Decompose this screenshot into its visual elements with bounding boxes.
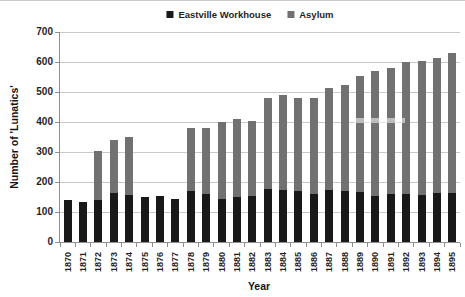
bar-1870-eastville-workhouse (64, 200, 72, 242)
bar-1887-asylum (325, 88, 333, 190)
y-tick-500 (55, 92, 59, 93)
x-tick-label-1871: 1871 (78, 252, 88, 278)
bar-1893-asylum (418, 61, 426, 195)
bar-1892-eastville-workhouse (402, 194, 410, 242)
bar-1892-asylum (402, 62, 410, 194)
x-tick-13 (260, 243, 261, 247)
bar-1872-eastville-workhouse (94, 200, 102, 242)
x-tick-26 (460, 243, 461, 247)
bar-1881-eastville-workhouse (233, 197, 241, 242)
x-tick-7 (167, 243, 168, 247)
x-tick-12 (244, 243, 245, 247)
bar-1874-eastville-workhouse (125, 195, 133, 242)
bar-1885-eastville-workhouse (294, 191, 302, 242)
bar-1873-eastville-workhouse (110, 193, 118, 242)
x-tick-label-1895: 1895 (447, 252, 457, 278)
x-tick-label-1886: 1886 (309, 252, 319, 278)
scan-artifact-band (354, 118, 405, 123)
x-tick-5 (136, 243, 137, 247)
x-tick-label-1872: 1872 (93, 252, 103, 278)
x-tick-10 (213, 243, 214, 247)
x-tick-label-1893: 1893 (417, 252, 427, 278)
bar-1875-eastville-workhouse (141, 197, 149, 242)
bar-1871-eastville-workhouse (79, 202, 87, 242)
x-tick-9 (198, 243, 199, 247)
bar-1886-eastville-workhouse (310, 194, 318, 242)
y-tick-0 (55, 242, 59, 243)
bar-1883-asylum (264, 98, 272, 189)
x-tick-label-1888: 1888 (340, 252, 350, 278)
y-tick-300 (55, 152, 59, 153)
bar-1884-eastville-workhouse (279, 190, 287, 243)
y-tick-label-400: 400 (36, 117, 53, 127)
legend-label-eastville-workhouse: Eastville Workhouse (178, 9, 271, 20)
bar-1878-eastville-workhouse (187, 191, 195, 242)
bar-1895-asylum (448, 53, 456, 193)
bar-1888-asylum (341, 85, 349, 192)
bar-1874-asylum (125, 137, 133, 195)
bar-1889-eastville-workhouse (356, 192, 364, 242)
y-tick-label-200: 200 (36, 177, 53, 187)
x-tick-6 (152, 243, 153, 247)
x-tick-label-1877: 1877 (170, 252, 180, 278)
bar-1894-asylum (433, 58, 441, 193)
bar-1884-asylum (279, 95, 287, 190)
x-tick-25 (444, 243, 445, 247)
x-tick-24 (429, 243, 430, 247)
bar-1895-eastville-workhouse (448, 193, 456, 243)
x-tick-label-1892: 1892 (401, 252, 411, 278)
x-tick-label-1875: 1875 (140, 252, 150, 278)
x-axis-title: Year (248, 280, 270, 292)
x-tick-16 (306, 243, 307, 247)
bar-1883-eastville-workhouse (264, 189, 272, 242)
x-tick-17 (321, 243, 322, 247)
y-tick-200 (55, 182, 59, 183)
bar-1888-eastville-workhouse (341, 191, 349, 242)
x-tick-label-1894: 1894 (432, 252, 442, 278)
x-tick-label-1884: 1884 (278, 252, 288, 278)
x-tick-label-1882: 1882 (247, 252, 257, 278)
bar-chart: Eastville Workhouse Asylum Number of 'Lu… (0, 0, 465, 297)
bar-1890-eastville-workhouse (371, 196, 379, 243)
bar-1880-eastville-workhouse (218, 199, 226, 243)
gridline-100 (60, 212, 460, 213)
gridline-200 (60, 182, 460, 183)
x-tick-8 (183, 243, 184, 247)
gridline-600 (60, 62, 460, 63)
x-tick-15 (290, 243, 291, 247)
gridline-700 (60, 32, 460, 33)
y-tick-label-600: 600 (36, 57, 53, 67)
bar-1879-asylum (202, 128, 210, 194)
y-tick-label-100: 100 (36, 207, 53, 217)
bar-1882-eastville-workhouse (248, 196, 256, 242)
bar-1882-asylum (248, 121, 256, 197)
bar-1872-asylum (94, 151, 102, 201)
x-tick-4 (121, 243, 122, 247)
x-tick-1 (75, 243, 76, 247)
x-tick-label-1890: 1890 (370, 252, 380, 278)
x-tick-label-1880: 1880 (217, 252, 227, 278)
x-tick-21 (383, 243, 384, 247)
legend-label-asylum: Asylum (299, 9, 333, 20)
y-tick-label-700: 700 (36, 27, 53, 37)
x-tick-2 (90, 243, 91, 247)
bar-1886-asylum (310, 98, 318, 194)
x-tick-label-1873: 1873 (109, 252, 119, 278)
legend-swatch-asylum (287, 11, 294, 18)
legend-item-asylum: Asylum (287, 9, 333, 20)
x-tick-label-1878: 1878 (186, 252, 196, 278)
bar-1873-asylum (110, 140, 118, 193)
x-tick-14 (275, 243, 276, 247)
y-tick-label-0: 0 (47, 237, 53, 247)
x-tick-label-1885: 1885 (293, 252, 303, 278)
x-tick-19 (352, 243, 353, 247)
x-tick-3 (106, 243, 107, 247)
bar-1893-eastville-workhouse (418, 195, 426, 242)
gridline-500 (60, 92, 460, 93)
x-tick-label-1870: 1870 (63, 252, 73, 278)
plot-area: 0100200300400500600700187018711872187318… (59, 32, 460, 243)
x-tick-label-1874: 1874 (124, 252, 134, 278)
legend-swatch-eastville-workhouse (166, 11, 173, 18)
x-tick-11 (229, 243, 230, 247)
x-tick-label-1891: 1891 (386, 252, 396, 278)
